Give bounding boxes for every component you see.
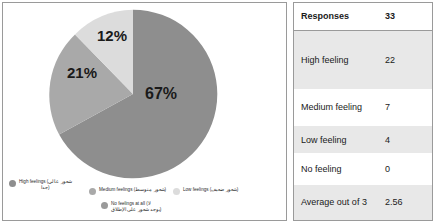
pie-chart-panel: 67% 21% 12% High feelings (شعور عالي (جد… [2, 2, 287, 221]
table-row: Average out of 3 2.56 [294, 185, 432, 220]
table-header-value: 33 [378, 3, 432, 30]
table-row: Medium feeling 7 [294, 89, 432, 127]
table-row: High feeling 22 [294, 30, 432, 88]
legend-swatch-icon-no-feelings [101, 202, 108, 209]
pie-label-low-feelings: 12% [97, 28, 127, 43]
table-cell-label: High feeling [294, 30, 378, 88]
legend-label-medium-feelings: Medium feelings (شعور متوسط) [99, 187, 166, 193]
table-cell-value: 2.56 [378, 185, 432, 220]
table-row: No feeling 0 [294, 153, 432, 184]
legend-swatch-icon-low-feelings [173, 188, 180, 195]
screenshot-root: 67% 21% 12% High feelings (شعور عالي (جد… [0, 0, 435, 224]
legend-label-high-feelings: High feelings (شعور عالي (جدا [19, 179, 72, 191]
table-row: Low feeling 4 [294, 126, 432, 153]
pie-chart: 67% 21% 12% [47, 8, 219, 180]
table-header-label: Responses [294, 3, 378, 30]
table-cell-label: Medium feeling [294, 89, 378, 127]
table-header-row: Responses 33 [294, 3, 432, 30]
table-cell-value: 4 [378, 126, 432, 153]
legend-item-low-feelings: Low feelings (شعور ضعيف) [173, 187, 238, 195]
legend-label-low-feelings: Low feelings (شعور ضعيف) [183, 187, 238, 193]
table-cell-label: Average out of 3 [294, 185, 378, 220]
legend-item-no-feelings: No feelings at all (لا (يوجد شعور على ال… [101, 201, 161, 213]
legend-swatch-icon-high-feelings [9, 180, 16, 187]
table-cell-label: Low feeling [294, 126, 378, 153]
legend-label-no-feelings: No feelings at all (لا (يوجد شعور على ال… [111, 201, 161, 213]
table-cell-label: No feeling [294, 153, 378, 184]
chart-legend: High feelings (شعور عالي (جدا Medium fee… [3, 177, 286, 221]
legend-swatch-icon-medium-feelings [89, 188, 96, 195]
responses-table-panel: Responses 33 High feeling 22 Medium feel… [293, 2, 433, 221]
pie-label-medium-feelings: 21% [67, 65, 97, 80]
table-cell-value: 7 [378, 89, 432, 127]
pie-chart-svg [47, 8, 219, 180]
legend-item-high-feelings: High feelings (شعور عالي (جدا [9, 179, 72, 191]
responses-table: Responses 33 High feeling 22 Medium feel… [294, 3, 432, 220]
legend-item-medium-feelings: Medium feelings (شعور متوسط) [89, 187, 166, 195]
table-cell-value: 0 [378, 153, 432, 184]
table-cell-value: 22 [378, 30, 432, 88]
pie-label-high-feelings: 67% [145, 86, 177, 102]
